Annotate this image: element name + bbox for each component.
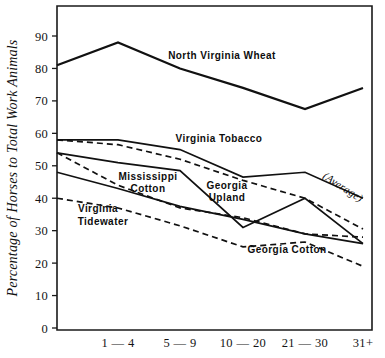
x-axis-tick-label: 1 — 4 [101,336,135,350]
series-annotation-label: Upland [209,192,246,203]
y-axis-tick-labels: 0102030405060708090 [35,30,48,336]
y-axis-tick-label: 60 [35,127,48,141]
x-axis-tick-label: 31+ [353,336,374,350]
line-chart-canvas: 0102030405060708090 1 — 45 — 910 — 2021 … [0,0,385,358]
y-axis-tick-label: 30 [35,224,48,238]
x-axis-tick-labels: 1 — 45 — 910 — 2021 — 3031+ [101,336,373,350]
series-lines-group [57,42,363,266]
series-annotation-label: Georgia [207,180,248,191]
chart-figure: 0102030405060708090 1 — 45 — 910 — 2021 … [0,0,385,358]
y-axis-tick-label: 0 [41,322,48,336]
x-axis-tick-label: 21 — 30 [282,336,329,350]
x-axis-tick-label: 5 — 9 [163,336,196,350]
series-annotation-label: Georgia Cotton [247,244,326,255]
series-annotation-label: Virginia [78,203,118,214]
y-axis-tick-label: 20 [35,257,48,271]
y-axis-tick-label: 40 [35,192,48,206]
y-axis-title: Percentage of Horses to Total Work Anima… [5,39,20,297]
series-annotation-label: Cotton [131,183,166,194]
series-annotation-label: Virginia Tobacco [176,133,263,144]
y-axis-tick-label: 90 [35,30,48,44]
y-axis-tick-label: 80 [35,62,48,76]
y-axis-tick-label: 70 [35,94,48,108]
y-axis-tick-label: 10 [35,289,48,303]
y-axis-title-text: Percentage of Horses to Total Work Anima… [5,39,20,297]
series-annotation-label: Mississippi [119,171,178,182]
series-annotation-label: Tidewater [78,216,129,227]
y-axis-tick-label: 50 [35,159,48,173]
x-axis-tick-label: 10 — 20 [220,336,267,350]
series-annotation-label: North Virginia Wheat [168,50,276,61]
series-annotation-label: (Average) [320,169,365,205]
